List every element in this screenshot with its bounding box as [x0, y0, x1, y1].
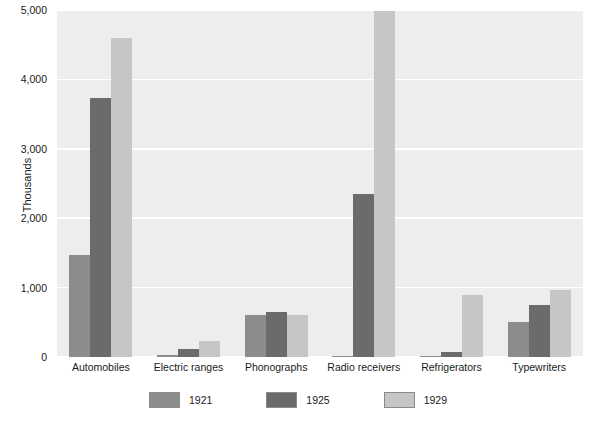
bar-chart: Thousands 01,0002,0003,0004,0005,000 Aut…: [0, 0, 596, 422]
legend-label: 1929: [424, 395, 447, 406]
x-axis-tick-label: Refrigerators: [421, 361, 482, 373]
bar-group: [508, 10, 571, 357]
bar: [69, 255, 90, 357]
y-axis-tick-labels: 01,0002,0003,0004,0005,000: [0, 10, 52, 357]
bar: [420, 356, 441, 357]
bar-group: [157, 10, 220, 357]
legend-swatch-icon: [266, 392, 297, 408]
bar: [441, 352, 462, 357]
bar: [90, 98, 111, 357]
bar: [287, 315, 308, 357]
x-axis-tick-label: Typewriters: [512, 361, 566, 373]
bar-group: [420, 10, 483, 357]
y-axis-tick-label: 0: [0, 352, 47, 363]
bar: [508, 322, 529, 357]
legend-label: 1921: [189, 395, 212, 406]
bars-layer: [57, 10, 583, 357]
x-axis-tick-label: Phonographs: [245, 361, 307, 373]
y-axis-tick-label: 1,000: [0, 282, 47, 293]
legend-label: 1925: [306, 395, 329, 406]
y-axis-tick-label: 5,000: [0, 5, 47, 16]
legend-swatch-icon: [384, 392, 415, 408]
bar: [266, 312, 287, 357]
legend-item[interactable]: 1921: [149, 392, 212, 408]
bar-group: [332, 10, 395, 357]
bar: [111, 38, 132, 357]
plot-area: [57, 10, 583, 357]
bar: [550, 290, 571, 357]
bar: [245, 315, 266, 357]
x-axis-tick-label: Automobiles: [72, 361, 130, 373]
bar: [374, 11, 395, 357]
legend-swatch-icon: [149, 392, 180, 408]
y-axis-tick-label: 2,000: [0, 213, 47, 224]
legend-item[interactable]: 1925: [266, 392, 329, 408]
chart-legend: 192119251929: [0, 389, 596, 411]
y-axis-tick-label: 4,000: [0, 74, 47, 85]
y-axis-tick-label: 3,000: [0, 144, 47, 155]
bar: [353, 194, 374, 357]
bar: [462, 295, 483, 357]
bar: [332, 356, 353, 357]
legend-item[interactable]: 1929: [384, 392, 447, 408]
bar: [529, 305, 550, 357]
bar: [199, 341, 220, 357]
x-axis-tick-labels: AutomobilesElectric rangesPhonographsRad…: [57, 359, 583, 379]
bar-group: [245, 10, 308, 357]
bar: [178, 349, 199, 357]
bar: [157, 355, 178, 357]
x-axis-tick-label: Electric ranges: [154, 361, 223, 373]
x-axis-tick-label: Radio receivers: [327, 361, 400, 373]
bar-group: [69, 10, 132, 357]
